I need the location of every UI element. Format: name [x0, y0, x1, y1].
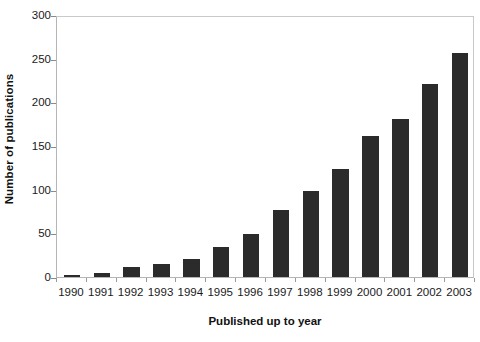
x-axis-tick-labels: 1990199119921993199419951996199719981999…	[56, 285, 474, 301]
x-tick-mark	[86, 278, 87, 282]
x-tick-label: 1998	[297, 285, 323, 299]
bar-1990	[64, 275, 80, 277]
y-tick-label: 250	[18, 54, 51, 66]
x-tick-label: 1999	[327, 285, 353, 299]
x-tick-mark	[384, 278, 385, 282]
x-tick-mark	[116, 278, 117, 282]
bar-chart: Number of publications 05010015020025030…	[0, 0, 480, 342]
x-tick-mark	[146, 278, 147, 282]
x-tick-mark	[414, 278, 415, 282]
x-tick-mark	[444, 278, 445, 282]
y-tick-label: 100	[18, 185, 51, 197]
x-tick-mark	[295, 278, 296, 282]
y-tick-label: 0	[18, 272, 51, 284]
x-tick-label: 1994	[178, 285, 204, 299]
y-tick-label: 300	[18, 10, 51, 22]
bar-1992	[123, 267, 139, 277]
x-tick-label: 1997	[267, 285, 293, 299]
x-tick-mark	[56, 278, 57, 282]
bar-1999	[332, 169, 348, 277]
x-tick-label: 1991	[88, 285, 114, 299]
bars-layer	[57, 17, 473, 277]
plot-area	[56, 16, 474, 278]
bar-1994	[183, 259, 199, 277]
y-tick-label: 50	[18, 229, 51, 241]
x-tick-mark	[235, 278, 236, 282]
y-tick-label: 150	[18, 141, 51, 153]
y-tick-label: 200	[18, 98, 51, 110]
bar-1991	[94, 273, 110, 277]
bar-1998	[303, 191, 319, 277]
x-tick-mark	[474, 278, 475, 282]
bar-1997	[273, 210, 289, 277]
bar-1993	[153, 264, 169, 277]
bar-2000	[362, 136, 378, 277]
y-axis-tick-labels: 050100150200250300	[18, 0, 51, 342]
bar-1995	[213, 247, 229, 277]
x-tick-mark	[175, 278, 176, 282]
y-axis-title: Number of publications	[0, 0, 18, 278]
x-tick-mark	[265, 278, 266, 282]
x-axis-title: Published up to year	[56, 315, 474, 327]
bar-2003	[452, 53, 468, 277]
x-tick-label: 1996	[237, 285, 263, 299]
x-tick-label: 1993	[148, 285, 174, 299]
x-tick-label: 2003	[446, 285, 472, 299]
x-tick-label: 1992	[118, 285, 144, 299]
x-tick-mark	[325, 278, 326, 282]
bar-1996	[243, 234, 259, 277]
x-tick-label: 1995	[207, 285, 233, 299]
x-tick-mark	[205, 278, 206, 282]
x-tick-label: 2002	[416, 285, 442, 299]
bar-2002	[422, 84, 438, 277]
x-tick-label: 1990	[58, 285, 84, 299]
x-tick-mark	[355, 278, 356, 282]
x-tick-label: 2001	[387, 285, 413, 299]
bar-2001	[392, 119, 408, 277]
x-tick-label: 2000	[357, 285, 383, 299]
